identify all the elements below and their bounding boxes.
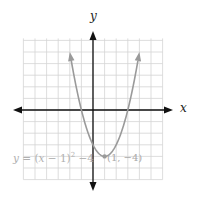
equation-eq: = ( [19, 152, 39, 164]
y-axis-up-arrow-icon [90, 31, 97, 40]
x-axis-left-arrow-icon [13, 107, 22, 114]
vertex-label: (1, −4) [107, 152, 142, 163]
y-axis-label: y [90, 9, 97, 23]
parabola-graph [0, 0, 198, 199]
equation-rest: − 1) [44, 152, 70, 164]
equation-tail: −4 [75, 152, 94, 164]
y-axis-down-arrow-icon [90, 182, 97, 191]
curve-right-arrow-icon [135, 52, 141, 61]
axes [13, 31, 173, 191]
x-axis-label: x [180, 101, 187, 115]
x-axis-right-arrow-icon [164, 107, 173, 114]
equation-label: y = (x − 1)2 −4 [13, 151, 94, 164]
curve-left-arrow-icon [68, 52, 74, 61]
